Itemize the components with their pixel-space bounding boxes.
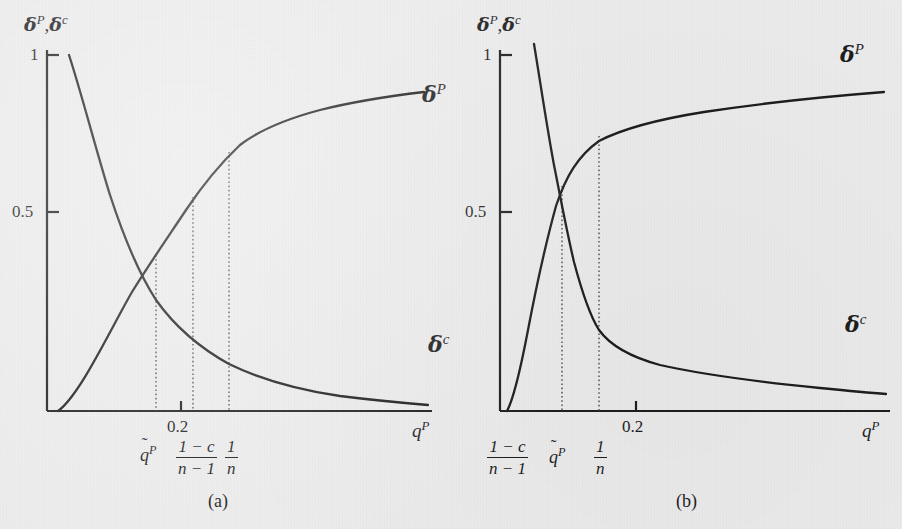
panel-a-ytick-label-1: 1 — [30, 46, 39, 63]
panel-b-xtick-label-1mc-over-nm1: 1 − c n − 1 — [487, 437, 528, 478]
panel-b-frac1-numerator: 1 − c — [487, 437, 528, 458]
panel-a-frac2-denominator: n — [225, 458, 238, 478]
panel-a-frac2-numerator: 1 — [225, 437, 238, 458]
panel-a-ytick-label-05: 0.5 — [12, 203, 33, 220]
panel-b-curve-label-delta-p: δP — [840, 42, 864, 66]
panel-b-curve-delta-p — [507, 92, 884, 411]
figure-container: δP,δc 1 0.5 0.2 ˜qP 1 − c n − 1 1 n qP δ… — [0, 0, 902, 529]
panel-a-curve-label-delta-c: δc — [428, 332, 449, 356]
panel-a-y-axis-title: δP,δc — [24, 14, 68, 34]
panel-b-x-axis-title: qP — [862, 420, 879, 440]
panel-b-frac2-denominator: n — [594, 458, 607, 478]
panel-a-xtick-label-1-over-n: 1 n — [225, 437, 238, 478]
panel-b-curve-label-delta-c: δc — [845, 312, 866, 336]
panel-b-y-axis-title: δP,δc — [477, 14, 521, 34]
panel-a-xtick-label-02: 0.2 — [167, 418, 188, 435]
panel-a-frac1-numerator: 1 − c — [176, 437, 217, 458]
panel-a-xtick-label-1mc-over-nm1: 1 − c n − 1 — [176, 437, 217, 478]
panel-a-x-axis-title: qP — [412, 420, 429, 440]
panel-b-axes — [500, 50, 890, 411]
panel-b-xtick-label-02: 0.2 — [622, 418, 643, 435]
panel-b-xtick-label-1-over-n: 1 n — [594, 437, 607, 478]
panel-b-frac1-denominator: n − 1 — [487, 458, 528, 478]
panel-b-caption: (b) — [676, 492, 697, 510]
panel-a-caption: (a) — [208, 492, 228, 510]
panel-b-ytick-label-1: 1 — [483, 46, 492, 63]
panel-b-frac2-numerator: 1 — [594, 437, 607, 458]
panel-a-curve-label-delta-p: δP — [422, 82, 446, 106]
panel-b-ytick-label-05: 0.5 — [465, 203, 486, 220]
panel-a-frac1-denominator: n − 1 — [176, 458, 217, 478]
panel-a-xtick-label-qtilde: ˜qP — [140, 444, 156, 464]
panel-b-xtick-label-qtilde: ˜qP — [549, 446, 565, 466]
panel-b-plot — [0, 0, 902, 529]
panel-b-curves — [507, 44, 886, 411]
